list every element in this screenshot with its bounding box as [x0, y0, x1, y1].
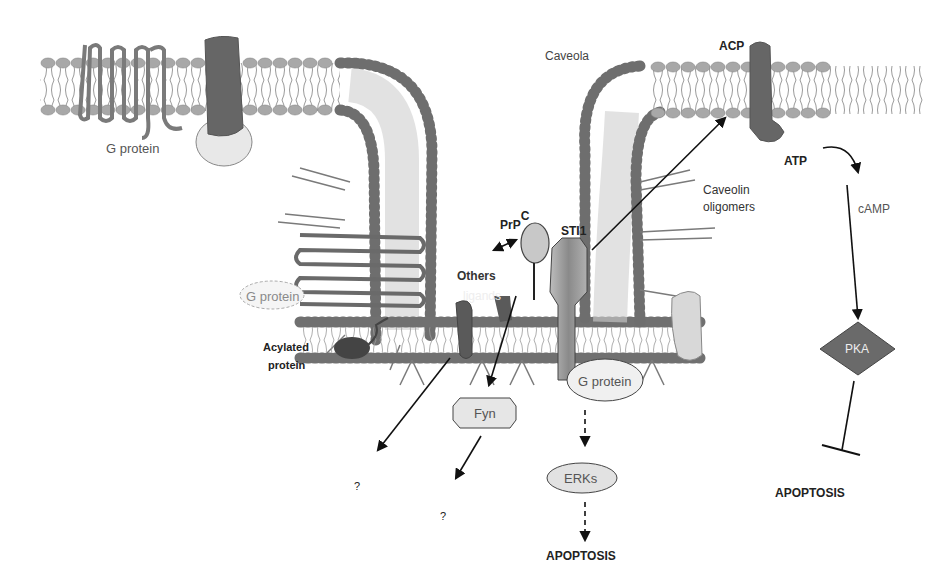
apoptosis-right-label: APOPTOSIS — [775, 487, 845, 499]
erks-label: ERKs — [564, 472, 597, 485]
camp-label: cAMP — [858, 203, 890, 215]
g-protein-left-label: G protein — [246, 290, 299, 303]
acylated-label-line1: Acylated — [263, 342, 309, 353]
unknown-target-1: ? — [354, 481, 360, 492]
prpc-label-superscript: C — [521, 209, 530, 223]
sti1-label: STI1 — [561, 225, 586, 237]
membrane-right — [650, 62, 925, 118]
caveolin-label-line1: Caveolin — [703, 184, 750, 196]
prpc-label-main: PrP — [500, 218, 521, 232]
transmembrane-protein-top — [205, 36, 243, 136]
g-protein-center-label: G protein — [578, 375, 631, 388]
caveola-label: Caveola — [545, 50, 589, 62]
others-label: Others — [457, 270, 496, 282]
ligands-label: ligands — [463, 290, 501, 302]
light-membrane-protein — [672, 291, 702, 360]
g-protein-top-label: G protein — [106, 142, 159, 155]
acylated-label-line2: protein — [268, 360, 305, 371]
caveolin-label-line2: oligomers — [703, 201, 755, 213]
pka-label: PKA — [845, 343, 869, 355]
acylated-protein-shape — [334, 337, 370, 359]
acp-label: ACP — [719, 40, 744, 52]
fyn-label: Fyn — [474, 407, 496, 420]
caveola-wall-left — [340, 63, 432, 340]
prpc-label: PrPC — [500, 214, 529, 231]
apoptosis-center-label: APOPTOSIS — [546, 550, 616, 562]
unknown-target-2: ? — [440, 511, 446, 522]
atp-label: ATP — [784, 155, 807, 167]
diagram-canvas: G protein G protein Caveola ACP ATP cAMP… — [0, 0, 930, 586]
